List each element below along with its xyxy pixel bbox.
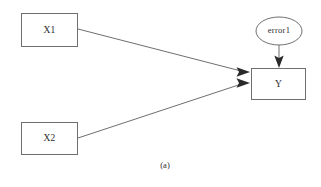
node-y[interactable]: Y	[252, 69, 306, 100]
edge-x1-to-y	[78, 29, 250, 77]
figure-caption: (a)	[160, 160, 170, 170]
node-x2[interactable]: X2	[22, 123, 78, 155]
path-diagram-canvas: X1 X2 Y error1 (a)	[0, 0, 321, 187]
node-x2-label: X2	[43, 133, 55, 143]
node-x1-label: X1	[43, 25, 55, 35]
node-error1[interactable]: error1	[256, 17, 302, 45]
edge-x2-to-y-arrowhead	[237, 78, 251, 88]
edge-x1-to-y-line	[78, 29, 243, 72]
node-x1[interactable]: X1	[22, 14, 78, 47]
edge-error1-to-y	[274, 45, 283, 68]
node-y-label: Y	[275, 79, 282, 89]
path-diagram-figure: X1 X2 Y error1 (a)	[0, 0, 321, 187]
edge-x2-to-y-line	[78, 84, 243, 139]
node-error1-label: error1	[268, 25, 291, 35]
edge-x2-to-y	[78, 78, 250, 138]
edge-x1-to-y-arrowhead	[237, 67, 251, 77]
